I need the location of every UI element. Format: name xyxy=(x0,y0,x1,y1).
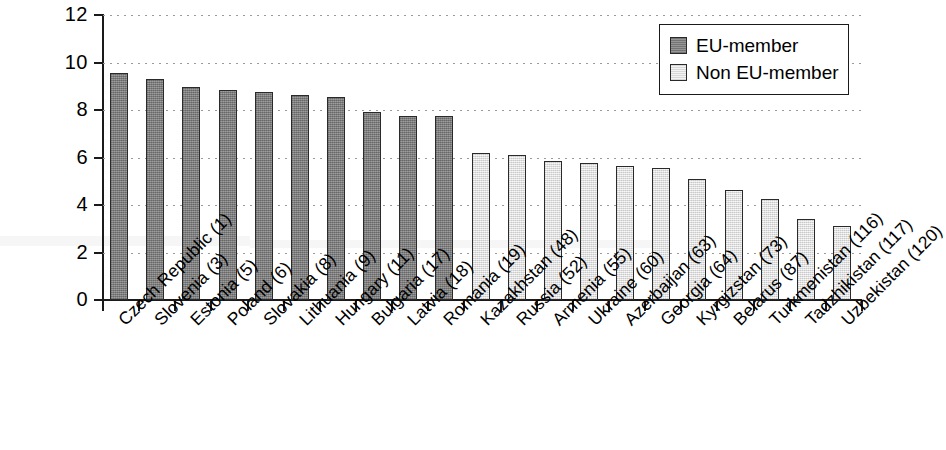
y-axis-tick-label: 8 xyxy=(0,99,88,119)
y-axis-tick-label: 4 xyxy=(0,194,88,214)
y-axis-tick xyxy=(94,14,103,16)
y-axis-tick-label: 2 xyxy=(0,242,88,262)
y-axis-tick xyxy=(94,252,103,254)
y-axis-tick-label-text: 12 xyxy=(0,4,88,24)
y-axis-tick xyxy=(94,109,103,111)
y-axis-tick-label-text: 10 xyxy=(0,52,88,72)
y-axis-tick xyxy=(94,204,103,206)
y-axis-tick-label-text: 0 xyxy=(0,289,88,309)
legend-label-non-eu-member: Non EU-member xyxy=(696,62,839,83)
legend: EU-member Non EU-member xyxy=(659,24,849,95)
bar xyxy=(110,73,128,300)
y-axis-tick xyxy=(94,157,103,159)
legend-swatch-eu-member xyxy=(670,37,687,54)
y-axis-tick-label-text: 6 xyxy=(0,147,88,167)
y-axis-tick-label: 12 xyxy=(0,4,88,24)
x-axis-tick xyxy=(102,301,104,311)
gridline xyxy=(103,15,862,16)
legend-label-eu-member: EU-member xyxy=(696,35,798,56)
y-axis-tick-label-text: 4 xyxy=(0,194,88,214)
y-axis-tick-label: 6 xyxy=(0,147,88,167)
legend-item-eu-member: EU-member xyxy=(670,32,838,59)
legend-item-non-eu-member: Non EU-member xyxy=(670,59,838,86)
y-axis-tick-label-text: 8 xyxy=(0,99,88,119)
y-axis-tick-label: 10 xyxy=(0,52,88,72)
y-axis-tick-label-text: 2 xyxy=(0,242,88,262)
y-axis-tick-label: 0 xyxy=(0,289,88,309)
legend-swatch-non-eu-member xyxy=(670,64,687,81)
y-axis-tick xyxy=(94,62,103,64)
gridline xyxy=(103,110,862,111)
